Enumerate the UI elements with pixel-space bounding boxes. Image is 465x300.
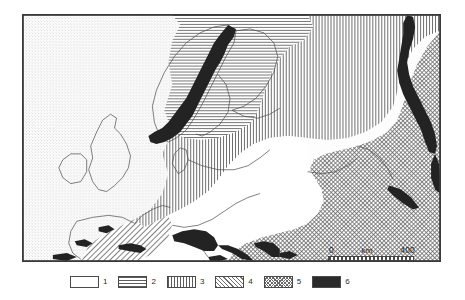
legend: 1 2 3 4 5 6 <box>22 272 441 292</box>
map-figure: 0 km 400 1 2 3 4 <box>0 0 465 300</box>
scale-max-label: 400 <box>400 245 415 255</box>
legend-label-2: 2 <box>151 278 155 286</box>
legend-item-1: 1 <box>70 276 107 288</box>
legend-label-1: 1 <box>103 278 107 286</box>
legend-swatch-4 <box>215 276 244 288</box>
legend-items: 1 2 3 4 5 6 <box>70 276 350 288</box>
scale-zero-label: 0 <box>329 245 334 255</box>
legend-label-6: 6 <box>345 278 349 286</box>
legend-swatch-1 <box>70 276 99 288</box>
scale-unit-label: km <box>362 246 373 255</box>
legend-item-2: 2 <box>118 276 155 288</box>
legend-item-4: 4 <box>215 276 252 288</box>
legend-item-5: 5 <box>264 276 301 288</box>
map-canvas <box>23 15 440 261</box>
scale-bar: 0 km 400 <box>328 245 416 261</box>
legend-swatch-2 <box>118 276 147 288</box>
map-drawing <box>23 15 440 261</box>
legend-item-3: 3 <box>167 276 204 288</box>
scale-bar-graphic <box>328 256 414 261</box>
legend-label-4: 4 <box>248 278 252 286</box>
legend-item-6: 6 <box>312 276 349 288</box>
legend-label-5: 5 <box>297 278 301 286</box>
legend-swatch-6 <box>312 276 341 288</box>
map-frame: 0 km 400 <box>22 14 441 262</box>
legend-label-3: 3 <box>200 278 204 286</box>
scale-bar-labels: 0 km 400 <box>328 245 416 256</box>
legend-swatch-3 <box>167 276 196 288</box>
legend-swatch-5 <box>264 276 293 288</box>
